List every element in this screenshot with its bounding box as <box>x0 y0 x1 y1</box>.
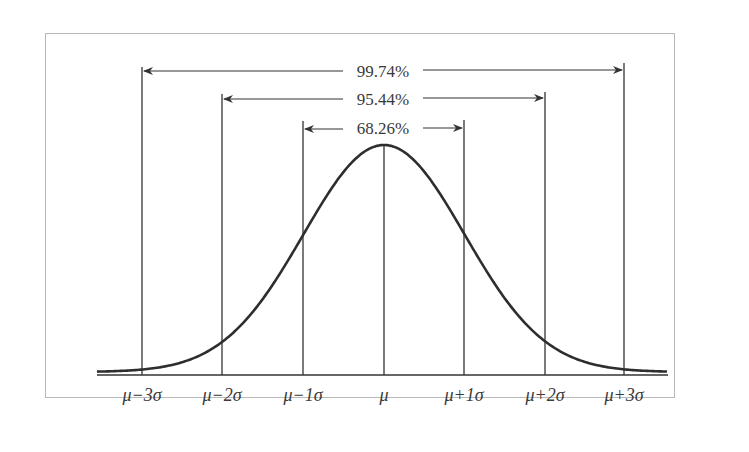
tick-minus-1sigma: μ−1σ <box>282 385 323 405</box>
normal-curve <box>97 145 667 372</box>
tick-mean: μ <box>378 385 388 405</box>
tick-plus-2sigma: μ+2σ <box>524 385 565 405</box>
label-95-44: 95.44% <box>357 90 409 109</box>
tick-minus-3sigma: μ−3σ <box>121 385 162 405</box>
label-99-74: 99.74% <box>357 62 409 81</box>
normal-distribution-chart: 99.74% 95.44% 68.26% μ−3σ μ−2σ μ−1σ μ μ+… <box>0 0 749 452</box>
tick-plus-3sigma: μ+3σ <box>603 385 644 405</box>
label-68-26: 68.26% <box>357 119 409 138</box>
tick-plus-1sigma: μ+1σ <box>443 385 484 405</box>
tick-minus-2sigma: μ−2σ <box>201 385 242 405</box>
